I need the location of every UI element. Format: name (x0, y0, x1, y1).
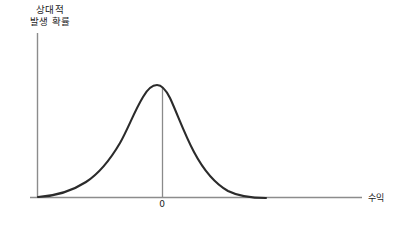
x-axis-title: 수익 (368, 192, 384, 204)
y-axis-title-line-1: 상대적 (24, 4, 76, 16)
y-axis-title: 상대적 발생 확률 (24, 4, 76, 28)
y-axis-title-line-2: 발생 확률 (24, 16, 76, 28)
x-axis-tick-label-zero: 0 (155, 199, 169, 209)
chart-plot-area (0, 0, 399, 233)
distribution-curve (38, 85, 266, 198)
chart-container: 상대적 발생 확률 수익 0 (0, 0, 399, 233)
